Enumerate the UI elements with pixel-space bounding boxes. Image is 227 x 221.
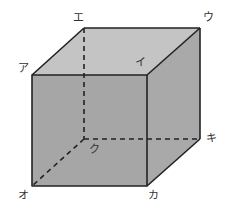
vertex-label-e: エ <box>73 12 84 23</box>
vertex-label-a: ア <box>18 63 29 74</box>
vertex-label-i: イ <box>135 57 146 68</box>
cube-figure <box>0 0 227 221</box>
vertex-label-ku: ク <box>89 144 100 155</box>
vertex-label-ka: カ <box>148 190 159 201</box>
cube-diagram: ア イ ウ エ オ カ キ ク <box>0 0 227 221</box>
vertex-label-o: オ <box>18 190 29 201</box>
vertex-label-u: ウ <box>203 12 214 23</box>
vertex-label-ki: キ <box>206 133 217 144</box>
